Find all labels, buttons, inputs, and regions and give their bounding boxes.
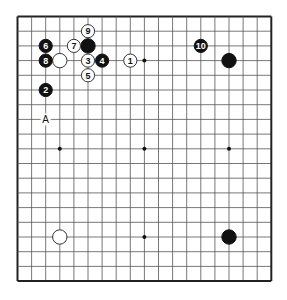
black-stone-2: 2 <box>39 83 52 96</box>
black-stone <box>81 39 95 53</box>
label-text: A <box>42 114 49 125</box>
white-stone-1: 1 <box>124 54 137 67</box>
move-number: 7 <box>71 41 76 51</box>
move-number: 8 <box>43 56 48 66</box>
white-stone-5: 5 <box>81 69 94 82</box>
go-board[interactable]: A 12345678910 <box>0 0 287 300</box>
star-point <box>142 235 146 239</box>
stone-disc <box>53 230 67 244</box>
move-number: 10 <box>196 41 206 51</box>
board-label: A <box>41 113 51 125</box>
black-stone-10: 10 <box>194 39 207 52</box>
white-stone-3: 3 <box>81 54 94 67</box>
black-stone <box>222 53 236 67</box>
stone-disc <box>53 53 67 67</box>
black-stone <box>222 230 236 244</box>
stone-disc <box>222 230 236 244</box>
board-labels: A <box>41 113 51 125</box>
stone-disc <box>81 39 95 53</box>
white-stone <box>53 53 67 67</box>
move-number: 1 <box>128 56 133 66</box>
black-stone-8: 8 <box>39 54 52 67</box>
star-point <box>142 147 146 151</box>
black-stone-6: 6 <box>39 39 52 52</box>
move-number: 3 <box>85 56 90 66</box>
star-point <box>142 59 146 63</box>
black-stone-4: 4 <box>96 54 109 67</box>
move-number: 4 <box>100 56 105 66</box>
stone-disc <box>222 53 236 67</box>
star-point <box>58 147 62 151</box>
move-number: 5 <box>85 71 90 81</box>
white-stone-7: 7 <box>67 39 80 52</box>
move-number: 2 <box>43 85 48 95</box>
move-number: 9 <box>85 26 90 36</box>
white-stone <box>53 230 67 244</box>
white-stone-9: 9 <box>81 25 94 38</box>
move-number: 6 <box>43 41 48 51</box>
star-point <box>227 147 231 151</box>
